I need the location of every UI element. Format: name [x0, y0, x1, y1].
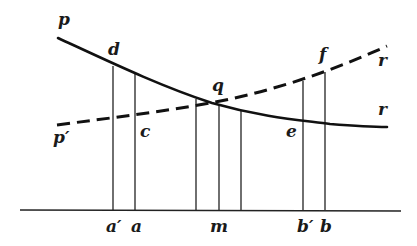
label-c: c: [140, 121, 151, 141]
label-a: a: [131, 216, 142, 236]
label-r-dashed: r: [378, 50, 388, 70]
label-f: f: [318, 44, 329, 64]
label-a-prime: a′: [106, 216, 122, 236]
label-m: m: [210, 216, 228, 236]
label-b-prime: b′: [297, 216, 314, 236]
label-r-solid: r: [378, 99, 388, 119]
label-p: p: [58, 9, 70, 29]
horizontal-axis: [20, 210, 401, 211]
label-q: q: [212, 75, 224, 95]
curve-diagram: p p′ r r d c q e f a′ a m b′ b: [0, 0, 417, 246]
label-p-prime: p′: [53, 127, 70, 147]
label-e: e: [286, 121, 297, 141]
label-d: d: [108, 39, 120, 59]
label-b: b: [320, 216, 332, 236]
